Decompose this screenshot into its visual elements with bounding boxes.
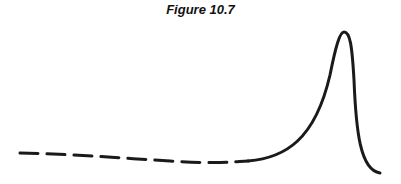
curve-diagram — [0, 0, 401, 184]
solid-curve-peak — [248, 32, 380, 173]
dashed-curve-segment — [20, 153, 248, 163]
